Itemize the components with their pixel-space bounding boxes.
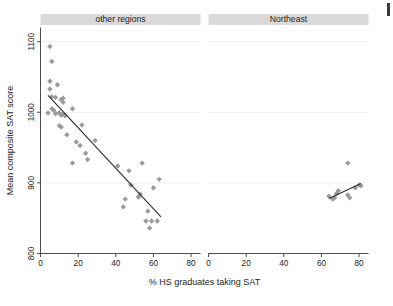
x-tick-label: 40: [279, 259, 289, 268]
panel-northeast-plot-area: [209, 28, 369, 254]
x-tick-label: 80: [355, 259, 365, 268]
scatter-plot-svg: other regions020406080Northeast020406080…: [0, 0, 393, 306]
x-tick-label: 60: [149, 259, 159, 268]
y-tick-label: 900: [27, 176, 36, 190]
x-axis-title: % HS graduates taking SAT: [149, 277, 261, 287]
x-tick-label: 40: [111, 259, 121, 268]
panel-other-regions-title: other regions: [95, 14, 145, 24]
x-tick-label: 0: [206, 259, 211, 268]
panel-other-regions-plot-area: [41, 28, 201, 254]
panel-northeast: Northeast020406080: [206, 14, 368, 268]
y-axis-title: Mean composite SAT score: [5, 86, 15, 196]
x-tick-label: 60: [317, 259, 327, 268]
scan-artifact-mark: [387, 3, 390, 16]
y-axis: 80090010001100: [27, 28, 41, 261]
x-tick-label: 0: [38, 259, 43, 268]
panel-other-regions: other regions020406080: [38, 14, 200, 268]
x-tick-label: 20: [74, 259, 84, 268]
figure-canvas: other regions020406080Northeast020406080…: [0, 0, 393, 306]
panel-northeast-title: Northeast: [270, 14, 308, 24]
y-tick-label: 1100: [27, 32, 36, 50]
x-tick-label: 20: [242, 259, 252, 268]
y-tick-label: 1000: [27, 103, 36, 122]
y-tick-label: 800: [27, 246, 36, 260]
x-tick-label: 80: [187, 259, 197, 268]
